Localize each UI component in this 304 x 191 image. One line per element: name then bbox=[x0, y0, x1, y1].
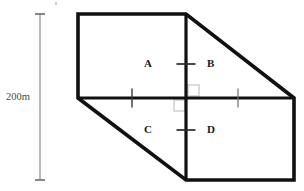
region-label-b: B bbox=[207, 58, 214, 69]
region-label-c: C bbox=[144, 124, 152, 135]
diagram-background bbox=[0, 0, 304, 191]
figure-diagram bbox=[0, 0, 304, 191]
figure-canvas: A B C D 200m bbox=[0, 0, 304, 191]
scan-speck bbox=[55, 2, 57, 5]
dimension-label-height: 200m bbox=[6, 92, 30, 103]
region-label-a: A bbox=[144, 58, 152, 69]
region-label-d: D bbox=[207, 124, 215, 135]
